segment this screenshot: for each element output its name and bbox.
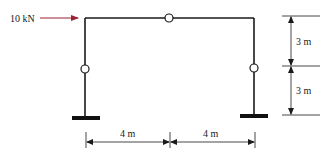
load-label: 10 kN [10, 13, 35, 24]
hinge-left-column [81, 65, 89, 73]
vertical-dimension [282, 16, 320, 115]
fixed-support-right [240, 114, 268, 118]
horizontal-dimension [86, 132, 255, 148]
frame-members [85, 18, 254, 118]
dim-label-upper: 3 m [296, 36, 312, 47]
hinge-top-beam [165, 14, 173, 22]
hinge-right-column [250, 64, 258, 72]
dim-label-lower: 3 m [296, 85, 312, 96]
dim-label-left-span: 4 m [120, 128, 136, 139]
fixed-support-left [72, 116, 100, 120]
dim-label-right-span: 4 m [203, 128, 219, 139]
frame-diagram: 10 kN 3 m 3 m 4 m 4 m [0, 0, 324, 158]
